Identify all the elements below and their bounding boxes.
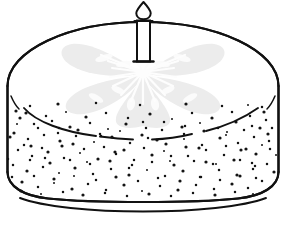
cake-speckle: [266, 132, 269, 135]
cake-speckle: [56, 102, 59, 105]
cake-speckle: [187, 155, 190, 158]
cake-speckle: [70, 187, 73, 190]
cake-speckle: [29, 105, 32, 108]
cake-speckle: [141, 190, 143, 192]
cake-speckle: [122, 183, 125, 186]
cake-speckle: [253, 136, 256, 139]
cake-speckle: [239, 148, 242, 151]
cake-speckle: [269, 148, 272, 151]
cake-speckle: [169, 160, 171, 162]
cake-speckle: [71, 142, 74, 145]
cake-speckle: [204, 160, 207, 163]
cake-speckle: [29, 159, 32, 162]
cake-speckle: [75, 135, 78, 138]
cake-speckle: [232, 158, 235, 161]
cake-speckle: [180, 125, 183, 128]
cake-speckle: [150, 153, 153, 156]
cake-speckle: [181, 169, 184, 172]
cake-speckle: [127, 173, 130, 176]
cake-speckle: [151, 161, 154, 164]
cake-speckle: [254, 152, 257, 155]
cake-speckle: [210, 116, 213, 119]
cake-speckle: [8, 135, 11, 138]
cake-speckle: [63, 157, 66, 160]
cake-speckle: [243, 129, 246, 132]
cake-speckle: [244, 147, 247, 150]
cake-speckle: [219, 179, 222, 182]
cake-speckle: [146, 169, 148, 171]
cake-speckle: [122, 148, 125, 151]
birthday-cake-drawing: [0, 0, 286, 229]
cake-speckle: [163, 150, 165, 152]
cake-speckle: [234, 191, 237, 194]
cake-speckle: [89, 122, 92, 125]
cake-speckle: [53, 182, 55, 184]
cake-speckle: [73, 166, 76, 169]
cake-speckle: [37, 186, 40, 189]
cake-speckle: [145, 127, 148, 130]
cake-speckle: [170, 155, 173, 158]
cake-speckle: [226, 131, 228, 133]
cake-speckle: [107, 128, 109, 130]
cake-speckle: [33, 175, 36, 178]
cake-speckle: [129, 142, 132, 145]
cake-speckle: [164, 142, 167, 145]
cake-speckle: [58, 172, 60, 174]
cake-speckle: [31, 155, 34, 158]
cake-speckle: [199, 122, 201, 124]
cake-speckle: [14, 109, 17, 112]
cake-speckle: [45, 115, 48, 118]
cake-speckle: [184, 102, 187, 105]
cake-speckle: [43, 134, 46, 137]
cake-speckle: [235, 173, 238, 176]
cake-speckle: [29, 144, 32, 147]
cake-speckle: [197, 146, 200, 149]
cake-speckle: [159, 185, 162, 188]
cake-speckle: [164, 175, 167, 178]
cake-speckle: [127, 117, 130, 120]
cake-speckle: [87, 183, 90, 186]
birthday-candle[interactable]: [134, 2, 154, 62]
cake-speckle: [41, 147, 44, 150]
cake-speckle: [44, 157, 47, 160]
cake-speckle: [17, 149, 20, 152]
cake-speckle: [247, 104, 249, 106]
cake-speckle: [48, 161, 51, 164]
cake-illustration-canvas: [0, 0, 286, 229]
cake-speckle: [231, 111, 234, 114]
cake-speckle: [201, 144, 204, 147]
cake-speckle: [247, 187, 250, 190]
cake-speckle: [221, 105, 224, 108]
cake-speckle: [110, 168, 113, 171]
cake-speckle: [261, 180, 264, 183]
cake-speckle: [225, 145, 228, 148]
cake-speckle: [254, 165, 257, 168]
cake-speckle: [84, 115, 87, 118]
cake-speckle: [265, 119, 268, 122]
cake-speckle: [262, 110, 265, 113]
cake-speckle: [213, 188, 216, 191]
candle-body[interactable]: [137, 21, 150, 62]
cake-speckle: [76, 128, 79, 131]
cake-speckle: [139, 104, 142, 107]
cake-speckle: [95, 102, 98, 105]
cake-speckle: [114, 175, 117, 178]
cake-speckle: [170, 195, 173, 198]
cake-speckle: [131, 164, 134, 167]
cake-speckle: [239, 159, 242, 162]
cake-speckle: [11, 176, 14, 179]
cake-speckle: [108, 159, 111, 162]
cake-speckle: [52, 177, 55, 180]
cake-speckle: [81, 193, 84, 196]
cake-speckle: [69, 159, 72, 162]
cake-speckle: [178, 179, 181, 182]
cake-speckle: [104, 192, 107, 195]
cake-speckle: [16, 123, 18, 125]
cake-speckle: [225, 134, 227, 136]
cake-speckle: [251, 125, 254, 128]
cake-speckle: [12, 164, 15, 167]
cake-speckle: [57, 132, 60, 135]
cake-speckle: [18, 116, 21, 119]
cake-speckle: [147, 137, 150, 140]
cake-speckle: [272, 170, 275, 173]
